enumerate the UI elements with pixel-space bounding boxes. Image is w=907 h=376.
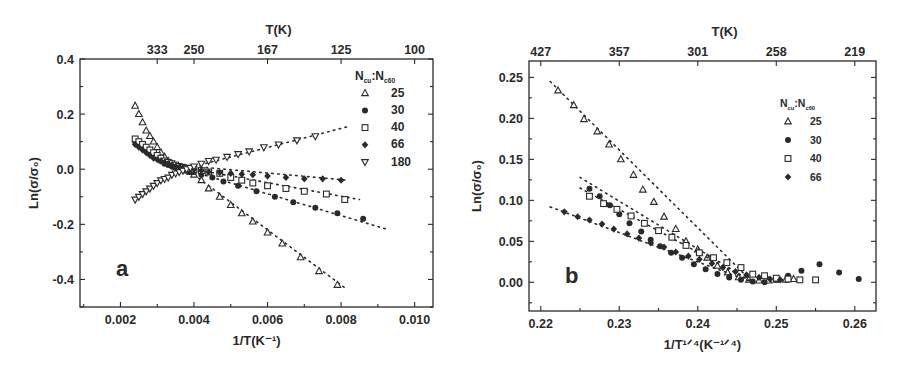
- data-point: [813, 277, 819, 283]
- data-point: [272, 194, 278, 200]
- data-point: [323, 191, 329, 197]
- data-point: [762, 279, 768, 285]
- data-point: [254, 188, 260, 194]
- legend: Ncu:Nc6025304066180: [355, 69, 411, 169]
- top-tick-label: 125: [331, 43, 352, 57]
- data-point: [561, 208, 568, 215]
- panel-label: b: [565, 263, 578, 288]
- data-point: [618, 156, 625, 162]
- x-tick-label: 0.004: [178, 313, 209, 327]
- series-40: [580, 188, 818, 283]
- legend-marker: [362, 125, 368, 131]
- x-tick-label: 0.25: [764, 317, 788, 331]
- y-tick-label: 0.20: [499, 112, 523, 126]
- data-point: [683, 243, 689, 249]
- x-tick-label: 0.26: [843, 317, 867, 331]
- data-point: [265, 183, 271, 189]
- x-tick-label: 0.002: [105, 313, 136, 327]
- data-point: [297, 254, 304, 260]
- y-axis-title: Ln(σ/σ₀): [26, 157, 41, 209]
- plot-frame: [80, 59, 433, 307]
- legend-marker: [785, 156, 791, 162]
- legend-label: 180: [391, 155, 411, 169]
- data-point: [630, 171, 637, 177]
- x-tick-label: 0.006: [252, 313, 283, 327]
- data-point: [587, 193, 593, 199]
- y-tick-label: 0.15: [499, 153, 523, 167]
- legend-title: Ncu:Nc60: [355, 69, 395, 84]
- legend-marker: [785, 118, 792, 124]
- data-point: [797, 277, 803, 283]
- data-point: [586, 216, 593, 223]
- data-point: [139, 119, 146, 125]
- x-axis-title: 1/T¹ᐟ⁴(K⁻¹ᐟ⁴): [664, 337, 741, 352]
- data-point: [238, 210, 245, 216]
- y-tick-label: 0.2: [57, 108, 74, 122]
- data-point: [594, 128, 601, 134]
- legend-title: Ncu:Nc60: [780, 97, 815, 111]
- data-point: [638, 228, 644, 234]
- data-point: [555, 87, 562, 93]
- y-tick-label: 0.10: [499, 194, 523, 208]
- top-tick-label: 100: [404, 43, 425, 57]
- top-tick-label: 427: [530, 45, 551, 59]
- top-tick-label: 333: [147, 43, 168, 57]
- legend-label: 25: [391, 86, 405, 100]
- legend-label: 30: [391, 103, 405, 117]
- data-point: [614, 206, 620, 212]
- top-tick-label: 219: [844, 45, 865, 59]
- x-tick-label: 0.22: [529, 317, 553, 331]
- data-point: [316, 268, 323, 274]
- data-point: [599, 221, 606, 228]
- data-point: [334, 281, 341, 287]
- top-tick-label: 250: [184, 43, 205, 57]
- legend-label: 40: [391, 120, 405, 134]
- top-axis-title: T(K): [266, 22, 292, 37]
- data-point: [586, 186, 592, 192]
- data-point: [301, 188, 307, 194]
- top-tick-label: 167: [257, 43, 278, 57]
- legend: Ncu:Nc6025304066: [780, 97, 822, 183]
- data-point: [574, 213, 581, 220]
- legend-label: 30: [810, 134, 822, 146]
- top-axis-title: T(K): [712, 24, 738, 39]
- top-tick-label: 301: [687, 45, 708, 59]
- data-point: [198, 161, 205, 167]
- y-tick-label: 0.25: [499, 71, 523, 85]
- data-point: [342, 197, 348, 203]
- data-point: [750, 271, 756, 277]
- data-point: [703, 266, 709, 272]
- x-tick-label: 0.010: [399, 313, 430, 327]
- data-point: [261, 145, 268, 151]
- data-point: [724, 260, 730, 266]
- legend-marker: [362, 90, 369, 96]
- y-tick-label: 0.4: [57, 53, 74, 67]
- series-30: [132, 139, 389, 230]
- data-point: [785, 276, 791, 282]
- data-point: [856, 276, 862, 282]
- data-point: [312, 205, 318, 211]
- top-tick-label: 357: [609, 45, 630, 59]
- data-point: [626, 220, 632, 226]
- panel-label: a: [116, 256, 129, 281]
- fit-line: [580, 177, 753, 282]
- data-point: [610, 225, 617, 232]
- data-point: [360, 216, 366, 222]
- series-25: [132, 102, 345, 287]
- data-point: [651, 198, 658, 204]
- data-point: [239, 177, 245, 183]
- data-point: [798, 268, 804, 274]
- legend-marker: [362, 107, 368, 113]
- y-tick-label: -0.2: [52, 218, 74, 232]
- panel-a-chart: 0.0020.0040.0060.0080.010333250167125100…: [26, 22, 433, 348]
- series-30: [580, 177, 862, 285]
- data-point: [136, 111, 143, 117]
- x-tick-label: 0.23: [607, 317, 631, 331]
- top-tick-label: 258: [766, 45, 787, 59]
- data-point: [312, 134, 319, 140]
- data-point: [238, 171, 245, 178]
- data-point: [640, 186, 647, 192]
- data-point: [711, 255, 717, 261]
- data-point: [290, 199, 296, 205]
- legend-marker: [785, 137, 791, 143]
